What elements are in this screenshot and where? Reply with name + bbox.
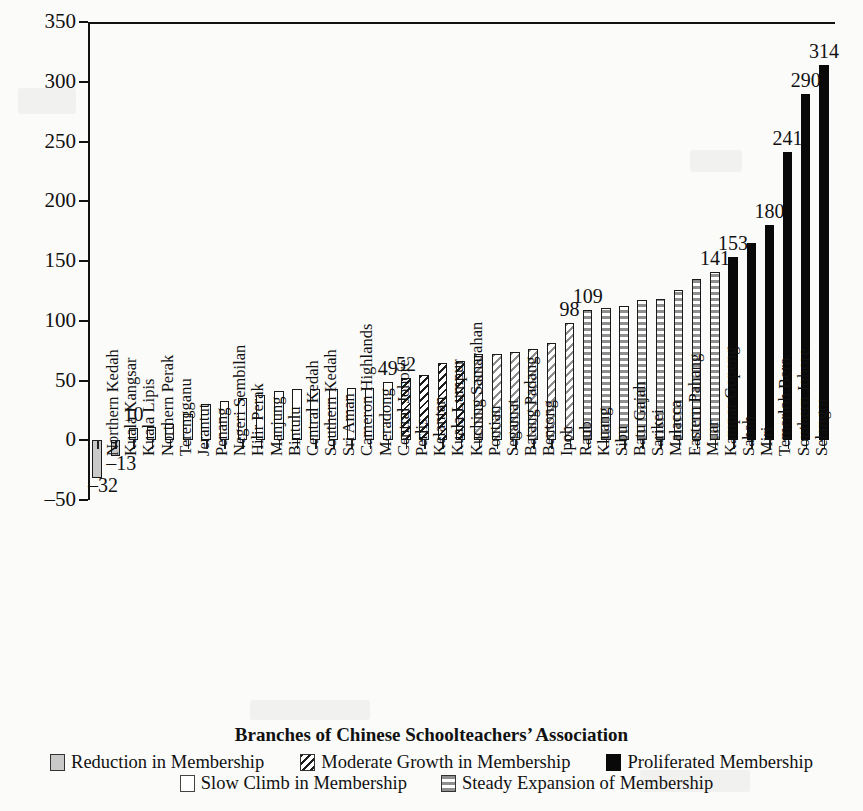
x-axis-tick-label: Manjung — [267, 397, 287, 457]
legend-swatch-icon — [50, 754, 65, 771]
bar — [710, 272, 719, 440]
x-axis-tick-label: Segamat — [503, 399, 523, 456]
bar-value-label: –32 — [88, 474, 118, 497]
y-axis-tick-label: 250 — [45, 128, 77, 153]
legend-label: Proliferated Membership — [627, 752, 812, 773]
y-axis-tick-label: –50 — [45, 487, 77, 512]
legend-swatch-icon — [300, 754, 315, 771]
y-axis-tick-label: 350 — [45, 9, 77, 34]
x-axis-tick-label: Kuching Samarahan — [467, 322, 487, 456]
x-axis-tick-label: Ipoh — [557, 426, 577, 456]
y-axis-tick — [79, 141, 88, 143]
y-axis-tick — [79, 21, 88, 23]
legend-label: Moderate Growth in Membership — [321, 752, 570, 773]
legend-item: Reduction in Membership — [50, 752, 264, 773]
bar-value-label: 314 — [809, 40, 839, 63]
y-axis-tick — [79, 320, 88, 322]
y-axis-tick-label: 300 — [45, 69, 77, 94]
y-axis-tick — [79, 380, 88, 382]
x-axis-tick-label: Kluang — [594, 408, 614, 457]
x-axis-tick-label: Selangor — [812, 398, 832, 457]
legend-row-2: Slow Climb in MembershipSteady Expansion… — [0, 773, 863, 794]
bar-value-label: 241 — [773, 127, 803, 150]
x-axis-title: Branches of Chinese Schoolteachers’ Asso… — [0, 724, 863, 746]
y-axis-tick — [79, 499, 88, 501]
x-axis-tick-label: Southern Johore — [794, 349, 814, 457]
bar — [619, 306, 628, 440]
bar — [765, 225, 774, 440]
y-axis-tick — [79, 260, 88, 262]
x-axis-tick-label: Jerantut — [194, 404, 214, 456]
bar — [819, 65, 828, 440]
chart-legend: Reduction in MembershipModerate Growth i… — [0, 752, 863, 794]
x-axis-tick-label: Pontian — [485, 406, 505, 456]
x-axis-tick-label: Malacca — [666, 400, 686, 456]
x-axis-tick-label: Cameron Highlands — [357, 324, 377, 456]
x-axis-tick-label: Kuala Lipis — [139, 379, 159, 456]
x-axis-tick-label: Central Johore — [394, 360, 414, 457]
chart-figure: Changes of Membership (Person) –50050100… — [0, 0, 863, 811]
y-axis-tick — [79, 439, 88, 441]
x-axis-tick-label: Batang Padang — [521, 357, 541, 456]
legend-swatch-icon — [606, 754, 621, 771]
x-axis-tick-label: Hilir Perak — [248, 383, 268, 456]
x-axis-tick-label: Sibu — [612, 426, 632, 456]
y-axis-tick — [79, 81, 88, 83]
bar-value-label: 180 — [754, 200, 784, 223]
x-axis-tick-label: Temerloh Bera — [775, 358, 795, 456]
bar-value-label: 290 — [791, 69, 821, 92]
bar-value-label: 153 — [718, 232, 748, 255]
x-axis-tick-label: Central Kedah — [303, 360, 323, 456]
x-axis-tick-label: Muar — [703, 421, 723, 457]
bar — [747, 243, 756, 440]
y-axis-tick-label: 50 — [55, 367, 76, 392]
legend-item: Steady Expansion of Membership — [441, 773, 713, 794]
x-axis-tick-label: Terengganu — [176, 379, 196, 457]
legend-label: Reduction in Membership — [71, 752, 264, 773]
bar-value-label: 109 — [573, 285, 603, 308]
x-axis-tick-label: Kampar Gopeng — [721, 347, 741, 457]
x-axis-tick-label: Raub — [576, 421, 596, 456]
y-axis-tick-label: 200 — [45, 188, 77, 213]
legend-label: Steady Expansion of Membership — [462, 773, 713, 794]
y-axis-tick-label: 0 — [66, 427, 77, 452]
y-axis-tick-label: 100 — [45, 308, 77, 333]
x-axis-tick-label: Perlis — [412, 419, 432, 457]
x-axis-line — [88, 22, 835, 24]
x-axis-tick-label: Meradong — [376, 388, 396, 456]
legend-item: Moderate Growth in Membership — [300, 752, 570, 773]
legend-swatch-icon — [180, 775, 195, 792]
legend-label: Slow Climb in Membership — [201, 773, 407, 794]
legend-row-1: Reduction in MembershipModerate Growth i… — [0, 752, 863, 773]
x-axis-tick-label: Kuala Lumpur — [448, 360, 468, 457]
x-axis-tick-label: Eastern Pahang — [685, 354, 705, 456]
y-axis-tick — [79, 200, 88, 202]
x-axis-tick-label: Bintulu — [285, 407, 305, 457]
legend-item: Slow Climb in Membership — [180, 773, 407, 794]
x-axis-tick — [97, 440, 99, 449]
bar — [565, 323, 574, 440]
legend-swatch-icon — [441, 775, 456, 792]
y-axis-tick-label: 150 — [45, 248, 77, 273]
x-axis-tick-label: Northern Perak — [158, 355, 178, 456]
legend-item: Proliferated Membership — [606, 752, 812, 773]
